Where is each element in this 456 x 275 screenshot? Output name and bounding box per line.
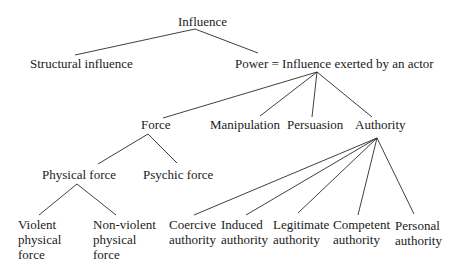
edge-force-psychic <box>148 134 177 163</box>
node-psychic-force: Psychic force <box>143 167 213 182</box>
edge-authority-personal <box>377 138 414 214</box>
node-physical-force: Physical force <box>42 167 116 182</box>
edge-influence-power <box>195 29 258 53</box>
edge-power-authority <box>317 72 372 117</box>
node-violent-physical-force: Violent physical force <box>18 217 61 262</box>
node-label-line: Non-violent <box>93 217 156 232</box>
edge-influence-structural <box>75 29 195 55</box>
node-label-line: Competent <box>333 217 390 232</box>
node-competent-authority: Competent authority <box>333 217 390 247</box>
node-coercive-authority: Coercive authority <box>169 217 216 247</box>
node-label-line: force <box>93 247 156 262</box>
influence-taxonomy-tree: Influence Structural influence Power = I… <box>0 0 456 275</box>
node-authority: Authority <box>355 117 406 132</box>
edge-power-persuasion <box>312 72 317 117</box>
edge-force-physical <box>98 134 148 164</box>
node-label-line: authority <box>333 232 390 247</box>
node-legitimate-authority: Legitimate authority <box>273 217 329 247</box>
node-label-line: Violent <box>18 217 61 232</box>
edge-authority-induced <box>246 138 377 215</box>
node-induced-authority: Induced authority <box>221 217 268 247</box>
node-influence: Influence <box>178 14 227 29</box>
node-structural-influence: Structural influence <box>30 56 133 71</box>
node-manipulation: Manipulation <box>210 117 280 132</box>
edge-authority-coercive <box>194 138 377 215</box>
edge-power-manipulation <box>260 72 317 116</box>
edge-power-force <box>163 72 317 118</box>
node-label-line: Coercive <box>169 217 216 232</box>
edge-authority-competent <box>358 138 377 215</box>
node-personal-authority: Personal authority <box>395 218 442 248</box>
node-force: Force <box>141 117 171 132</box>
node-label-line: authority <box>273 232 329 247</box>
node-power: Power = Influence exerted by an actor <box>235 56 434 71</box>
node-persuasion: Persuasion <box>287 117 343 132</box>
node-label-line: authority <box>169 232 216 247</box>
edge-physical-nonviolent <box>77 184 116 215</box>
node-label-line: Legitimate <box>273 217 329 232</box>
node-label-line: authority <box>221 232 268 247</box>
edge-authority-legitimate <box>298 138 377 213</box>
edge-physical-violent <box>39 184 77 215</box>
node-label-line: force <box>18 247 61 262</box>
node-label-line: Induced <box>221 217 268 232</box>
node-label-line: authority <box>395 233 442 248</box>
node-label-line: physical <box>93 232 156 247</box>
node-non-violent-physical-force: Non-violent physical force <box>93 217 156 262</box>
node-label-line: physical <box>18 232 61 247</box>
node-label-line: Personal <box>395 218 442 233</box>
